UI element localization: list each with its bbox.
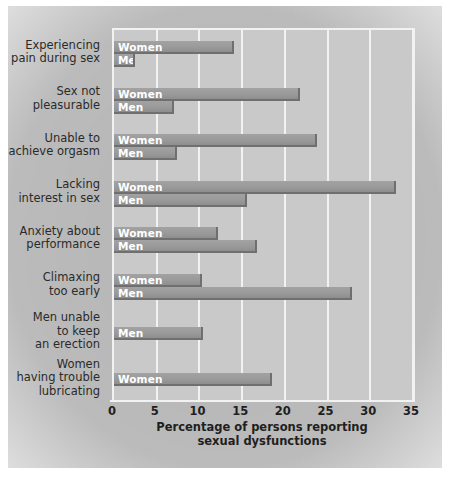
x-tick-label: 20 — [268, 404, 298, 418]
category-label: Sex not pleasurable — [0, 85, 100, 112]
bar-series-label: Men — [118, 101, 143, 114]
bar-group: Women — [114, 373, 413, 386]
category-label: Unable to achieve orgasm — [0, 132, 100, 159]
bar-men: Men — [114, 240, 257, 253]
category-label: Anxiety about performance — [0, 225, 100, 252]
bar-series-label: Men — [118, 54, 135, 67]
category-label: Men unable to keep an erection — [0, 311, 100, 352]
bar-rows: WomenMenWomenMenWomenMenWomenMenWomenMen… — [114, 30, 413, 402]
bar-group: WomenMen — [114, 88, 413, 114]
x-tick-label: 15 — [225, 404, 255, 418]
bar-series-label: Men — [118, 327, 143, 340]
category-label: Climaxing too early — [0, 271, 100, 298]
x-axis-line — [110, 400, 415, 402]
bar-women: Women — [114, 41, 234, 54]
bar-group: WomenMen — [114, 134, 413, 160]
bar-series-label: Women — [118, 227, 162, 240]
bar-chart-figure: WomenMenWomenMenWomenMenWomenMenWomenMen… — [0, 0, 450, 479]
bar-series-label: Women — [118, 181, 162, 194]
bar-women: Women — [114, 88, 300, 101]
category-label: Experiencing pain during sex — [0, 39, 100, 66]
x-tick-label: 5 — [140, 404, 170, 418]
x-tick-label: 25 — [311, 404, 341, 418]
bar-series-label: Men — [118, 194, 143, 207]
x-axis-title: Percentage of persons reporting sexual d… — [112, 420, 412, 448]
bar-series-label: Women — [118, 134, 162, 147]
category-labels: Experiencing pain during sexSex not plea… — [0, 28, 106, 400]
bar-group: WomenMen — [114, 181, 413, 207]
x-tick-label: 35 — [396, 404, 426, 418]
bar-group: WomenMen — [114, 274, 413, 300]
x-tick-label: 0 — [97, 404, 127, 418]
plot-area: WomenMenWomenMenWomenMenWomenMenWomenMen… — [112, 28, 415, 402]
bar-women: Women — [114, 274, 202, 287]
bar-men: Men — [114, 147, 177, 160]
bar-women: Women — [114, 134, 317, 147]
bar-women: Women — [114, 181, 396, 194]
bar-group: WomenMen — [114, 41, 413, 67]
bar-series-label: Women — [118, 373, 162, 386]
bar-women: Women — [114, 227, 218, 240]
bar-series-label: Women — [118, 88, 162, 101]
bar-men: Men — [114, 194, 247, 207]
bar-series-label: Women — [118, 274, 162, 287]
category-label: Women having trouble lubricating — [0, 358, 100, 399]
bar-men: Men — [114, 101, 174, 114]
bar-series-label: Women — [118, 41, 162, 54]
x-tick-label: 30 — [353, 404, 383, 418]
bar-series-label: Men — [118, 147, 143, 160]
bar-group: Men — [114, 327, 413, 340]
bar-men: Men — [114, 54, 135, 67]
bar-series-label: Men — [118, 287, 143, 300]
bar-series-label: Men — [118, 240, 143, 253]
bar-women: Women — [114, 373, 272, 386]
x-tick-labels: 05101520253035 — [0, 404, 450, 420]
bar-men: Men — [114, 287, 352, 300]
category-label: Lacking interest in sex — [0, 178, 100, 205]
bar-group: WomenMen — [114, 227, 413, 253]
x-tick-label: 10 — [182, 404, 212, 418]
bar-men: Men — [114, 327, 203, 340]
